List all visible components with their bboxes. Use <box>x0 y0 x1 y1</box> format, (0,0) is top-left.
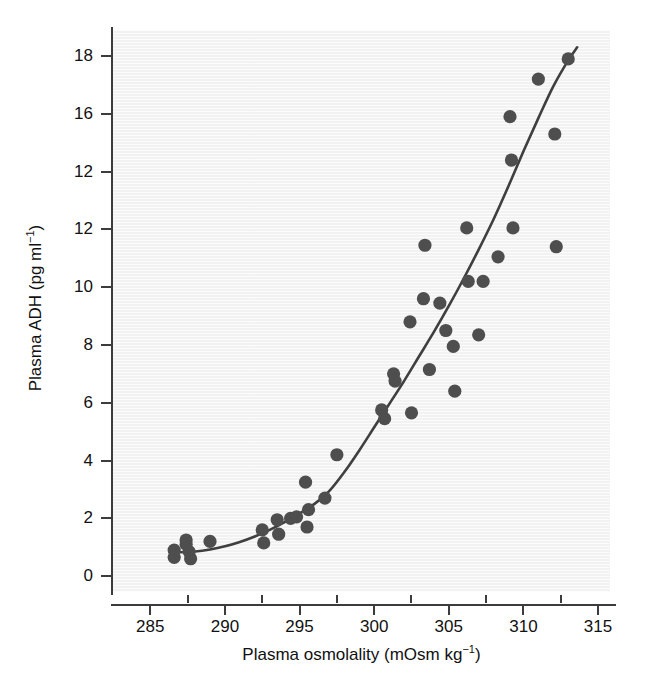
x-tick-mark <box>522 606 524 615</box>
y-tick-label-wrap: 18 <box>48 47 93 64</box>
x-axis-spine <box>111 604 616 606</box>
data-point <box>532 73 545 86</box>
y-tick-mark <box>101 171 111 173</box>
data-layer <box>113 30 610 592</box>
data-point <box>418 239 431 252</box>
x-tick-mark <box>224 606 226 615</box>
data-point <box>168 551 181 564</box>
y-tick-label-wrap: 10 <box>48 278 93 295</box>
data-point <box>378 412 391 425</box>
data-point <box>403 315 416 328</box>
y-tick-mark <box>101 113 111 115</box>
data-points-group <box>168 52 575 565</box>
y-tick-label-wrap: 6 <box>48 394 93 411</box>
x-tick-label: 295 <box>270 618 330 636</box>
y-tick-label-wrap: 12 <box>48 163 93 180</box>
x-tick-minor <box>261 595 263 603</box>
y-tick-mark <box>101 286 111 288</box>
data-point <box>300 520 313 533</box>
x-axis-title: Plasma osmolality (mOsm kg−1) <box>113 645 610 665</box>
x-tick-label: 310 <box>493 618 553 636</box>
x-tick-minor <box>410 595 412 603</box>
data-point <box>405 406 418 419</box>
data-point <box>272 528 285 541</box>
y-tick-label: 4 <box>53 452 93 469</box>
x-tick-minor <box>560 595 562 603</box>
y-tick-mark <box>101 575 111 577</box>
data-point <box>256 523 269 536</box>
data-point <box>318 491 331 504</box>
data-point <box>290 510 303 523</box>
y-tick-mark <box>101 460 111 462</box>
data-point <box>203 535 216 548</box>
x-tick-minor <box>336 595 338 603</box>
data-point <box>548 127 561 140</box>
x-tick-label: 305 <box>419 618 479 636</box>
x-tick-minor <box>187 595 189 603</box>
data-point <box>388 374 401 387</box>
data-point <box>550 240 563 253</box>
y-tick-mark <box>101 55 111 57</box>
data-point <box>503 110 516 123</box>
data-point <box>184 552 197 565</box>
y-tick-mark <box>101 228 111 230</box>
data-point <box>460 221 473 234</box>
y-tick-label: 16 <box>53 105 93 122</box>
data-point <box>330 448 343 461</box>
y-tick-label: 10 <box>53 278 93 295</box>
superscript: −1 <box>462 643 475 655</box>
data-point <box>477 275 490 288</box>
data-point <box>299 476 312 489</box>
data-point <box>423 363 436 376</box>
y-tick-mark <box>101 517 111 519</box>
data-point <box>271 513 284 526</box>
y-tick-mark <box>101 344 111 346</box>
data-point <box>257 536 270 549</box>
y-tick-label-wrap: 8 <box>48 336 93 353</box>
y-tick-label: 8 <box>53 336 93 353</box>
data-point <box>448 385 461 398</box>
data-point <box>505 153 518 166</box>
y-tick-label: 12 <box>53 220 93 237</box>
x-tick-minor <box>485 595 487 603</box>
data-point <box>462 275 475 288</box>
plot-area <box>113 30 610 592</box>
x-tick-mark <box>373 606 375 615</box>
data-point <box>417 292 430 305</box>
y-tick-label: 6 <box>53 394 93 411</box>
x-tick-label: 315 <box>568 618 628 636</box>
x-tick-mark <box>299 606 301 615</box>
x-tick-label: 285 <box>120 618 180 636</box>
x-tick-mark <box>597 606 599 615</box>
data-point <box>472 328 485 341</box>
y-tick-label-wrap: 4 <box>48 452 93 469</box>
y-tick-label-wrap: 16 <box>48 105 93 122</box>
data-point <box>439 324 452 337</box>
data-point <box>562 52 575 65</box>
data-point <box>447 340 460 353</box>
data-point <box>506 221 519 234</box>
y-tick-label: 18 <box>53 47 93 64</box>
figure-scatter-adh-osmolality: 024681012121618 285290295300305310315 Pl… <box>0 0 652 682</box>
data-point <box>433 296 446 309</box>
y-axis-spine <box>111 27 113 595</box>
y-tick-mark <box>101 402 111 404</box>
y-tick-label: 12 <box>53 163 93 180</box>
y-tick-label: 2 <box>53 509 93 526</box>
y-tick-label-wrap: 2 <box>48 509 93 526</box>
x-tick-label: 290 <box>195 618 255 636</box>
x-tick-label: 300 <box>344 618 404 636</box>
y-tick-label: 0 <box>53 567 93 584</box>
fitted-curve <box>177 47 577 552</box>
superscript: −1 <box>24 230 36 243</box>
x-tick-mark <box>448 606 450 615</box>
x-tick-mark <box>149 606 151 615</box>
y-tick-label-wrap: 12 <box>48 220 93 237</box>
data-point <box>491 250 504 263</box>
y-axis-title: Plasma ADH (pg ml−1) <box>26 168 46 448</box>
y-tick-label-wrap: 0 <box>48 567 93 584</box>
data-point <box>302 503 315 516</box>
